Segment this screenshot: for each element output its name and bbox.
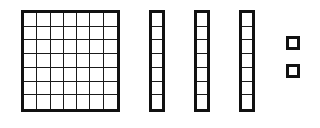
grid-cell	[51, 95, 64, 109]
grid-cell	[90, 82, 103, 96]
grid-cell	[51, 40, 64, 54]
grid-cell	[51, 82, 64, 96]
grid-cell	[104, 82, 117, 96]
grid-cell	[77, 13, 90, 27]
grid-cell	[24, 54, 37, 68]
strip-cell	[197, 95, 207, 109]
grid-cell	[37, 68, 50, 82]
grid-cell	[77, 27, 90, 41]
strip-cell	[152, 82, 162, 96]
grid-cell	[64, 27, 77, 41]
grid-cell	[64, 68, 77, 82]
grid-cell	[104, 54, 117, 68]
strip-cell	[197, 27, 207, 41]
grid-cell	[104, 13, 117, 27]
grid-cell	[64, 54, 77, 68]
grid-cell	[77, 54, 90, 68]
strip-cell	[242, 95, 252, 109]
grid-cell	[90, 13, 103, 27]
strip-block-2	[194, 10, 210, 112]
strip-cell	[242, 82, 252, 96]
grid-cell	[64, 13, 77, 27]
square-grid-block	[21, 10, 120, 112]
grid-cell	[24, 95, 37, 109]
grid-cell	[37, 82, 50, 96]
grid-cell	[64, 82, 77, 96]
grid-cell	[24, 13, 37, 27]
strip-cell	[242, 68, 252, 82]
strip-cell	[242, 40, 252, 54]
strip-cell	[152, 54, 162, 68]
strip-cell	[197, 54, 207, 68]
grid-cell	[90, 95, 103, 109]
grid-cell	[51, 68, 64, 82]
grid-cell	[104, 68, 117, 82]
strip-cell	[152, 40, 162, 54]
strip-cell	[152, 68, 162, 82]
grid-cell	[24, 82, 37, 96]
grid-cell	[37, 13, 50, 27]
grid-cell	[77, 82, 90, 96]
strip-cell	[197, 13, 207, 27]
grid-cell	[104, 27, 117, 41]
strip-cell	[197, 40, 207, 54]
strip-cell	[152, 27, 162, 41]
grid-cell	[24, 40, 37, 54]
strip-cell	[152, 13, 162, 27]
grid-cell	[37, 27, 50, 41]
grid-cell	[37, 95, 50, 109]
grid-cell	[77, 68, 90, 82]
strip-cell	[197, 82, 207, 96]
grid-cell	[90, 40, 103, 54]
grid-cell	[77, 95, 90, 109]
strip-block-3	[239, 10, 255, 112]
grid-cell	[104, 95, 117, 109]
unit-block-1	[286, 36, 300, 50]
grid-cell	[51, 13, 64, 27]
strip-cell	[152, 95, 162, 109]
strip-cell	[242, 27, 252, 41]
grid-cell	[90, 68, 103, 82]
strip-cell	[242, 13, 252, 27]
strip-cell	[242, 54, 252, 68]
grid-cell	[37, 54, 50, 68]
grid-cell	[64, 40, 77, 54]
grid-cell	[90, 27, 103, 41]
grid-cell	[24, 68, 37, 82]
strip-block-1	[149, 10, 165, 112]
grid-cell	[90, 54, 103, 68]
grid-cell	[37, 40, 50, 54]
grid-cell	[104, 40, 117, 54]
grid-cell	[24, 27, 37, 41]
grid-cell	[51, 54, 64, 68]
grid-cell	[77, 40, 90, 54]
unit-block-2	[286, 64, 300, 78]
grid-cell	[64, 95, 77, 109]
grid-cell	[51, 27, 64, 41]
strip-cell	[197, 68, 207, 82]
